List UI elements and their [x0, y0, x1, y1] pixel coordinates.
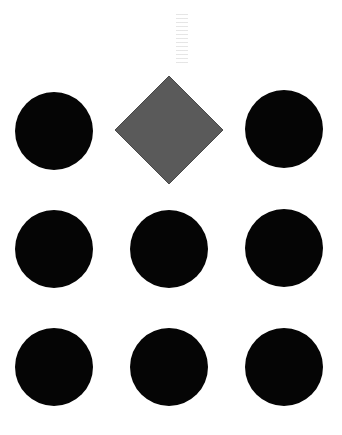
circle-shape-r1c1: [130, 210, 208, 288]
circle-shape-r2c1: [130, 328, 208, 406]
circle-shape-r0c0: [15, 92, 93, 170]
circle-shape-r2c0: [15, 328, 93, 406]
circle-shape-r0c2: [245, 90, 323, 168]
circle-shape-r1c0: [15, 210, 93, 288]
diamond-shape-r0c1: [114, 75, 224, 185]
scan-noise-mark: [176, 14, 188, 66]
circle-shape-r1c2: [245, 209, 323, 287]
circle-shape-r2c2: [245, 328, 323, 406]
